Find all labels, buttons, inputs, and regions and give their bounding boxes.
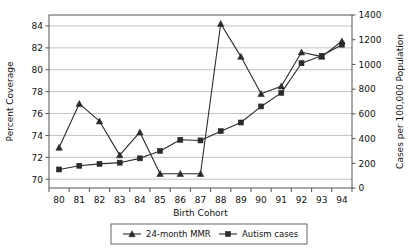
marker-square: [319, 53, 324, 58]
x-tick-label-80: 80: [53, 195, 65, 205]
y-axis-left-title: Percent Coverage: [5, 61, 15, 141]
marker-square: [226, 232, 231, 237]
marker-square: [117, 160, 122, 165]
plot-frame: [49, 15, 352, 188]
y-axis-right: 0200400600800100012001400Cases per 100,0…: [352, 10, 405, 193]
y-axis-right-title: Cases per 100,000 Population: [395, 34, 405, 169]
y2-tick-label-200: 200: [359, 159, 376, 169]
x-tick-label-82: 82: [94, 195, 105, 205]
x-tick-label-89: 89: [235, 195, 247, 205]
x-tick-label-81: 81: [74, 195, 85, 205]
y2-tick-label-800: 800: [359, 84, 376, 94]
y-tick-label-80: 80: [32, 65, 44, 75]
dual-axis-line-chart: 7072747678808284Percent Coverage02004006…: [0, 0, 412, 252]
y-axis-left: 7072747678808284Percent Coverage: [5, 21, 49, 184]
y2-tick-label-1000: 1000: [359, 60, 382, 70]
marker-square: [299, 61, 304, 66]
x-tick-label-84: 84: [134, 195, 146, 205]
marker-square: [77, 163, 82, 168]
marker-square: [339, 42, 344, 47]
x-tick-label-93: 93: [316, 195, 327, 205]
x-tick-label-94: 94: [336, 195, 348, 205]
chart-legend: 24-month MMRAutism cases: [111, 224, 307, 244]
marker-square: [259, 104, 264, 109]
marker-triangle: [278, 83, 284, 89]
marker-square: [279, 90, 284, 95]
x-tick-label-88: 88: [215, 195, 227, 205]
y2-tick-label-1400: 1400: [359, 10, 382, 20]
y-tick-label-76: 76: [32, 109, 44, 119]
plot-area-border: [49, 15, 352, 188]
series-line: [59, 24, 342, 174]
y-tick-label-74: 74: [32, 131, 44, 141]
marker-square: [178, 137, 183, 142]
x-axis: 808182838485868788899091929394Birth Coho…: [49, 188, 352, 218]
marker-square: [137, 156, 142, 161]
x-tick-label-92: 92: [296, 195, 307, 205]
marker-triangle: [298, 49, 304, 55]
y-tick-label-70: 70: [32, 175, 44, 185]
marker-square: [97, 161, 102, 166]
marker-square: [57, 167, 62, 172]
series-autism-cases: [57, 42, 345, 172]
marker-triangle: [137, 129, 143, 135]
marker-triangle: [238, 53, 244, 59]
x-tick-label-90: 90: [255, 195, 267, 205]
y2-tick-label-400: 400: [359, 134, 376, 144]
y-tick-label-78: 78: [32, 87, 44, 97]
x-tick-label-85: 85: [154, 195, 165, 205]
marker-square: [218, 129, 223, 134]
x-axis-title: Birth Cohort: [173, 208, 228, 218]
marker-triangle: [56, 144, 62, 150]
x-tick-label-87: 87: [195, 195, 206, 205]
y2-tick-label-600: 600: [359, 109, 376, 119]
x-tick-label-83: 83: [114, 195, 125, 205]
marker-triangle: [76, 100, 82, 106]
y2-tick-label-1200: 1200: [359, 35, 382, 45]
y2-tick-label-0: 0: [359, 183, 365, 193]
y-tick-label-72: 72: [32, 153, 43, 163]
marker-square: [238, 120, 243, 125]
x-tick-label-86: 86: [175, 195, 187, 205]
marker-square: [198, 138, 203, 143]
x-tick-label-91: 91: [276, 195, 287, 205]
chart-figure: 7072747678808284Percent Coverage02004006…: [0, 0, 412, 252]
y-tick-label-84: 84: [32, 21, 44, 31]
marker-triangle: [218, 21, 224, 27]
legend-label-0: 24-month MMR: [146, 229, 211, 239]
series-24-month-mmr: [56, 21, 345, 177]
gridlines: [49, 26, 352, 179]
legend-label-1: Autism cases: [242, 229, 299, 239]
y-tick-label-82: 82: [32, 43, 43, 53]
marker-square: [158, 148, 163, 153]
